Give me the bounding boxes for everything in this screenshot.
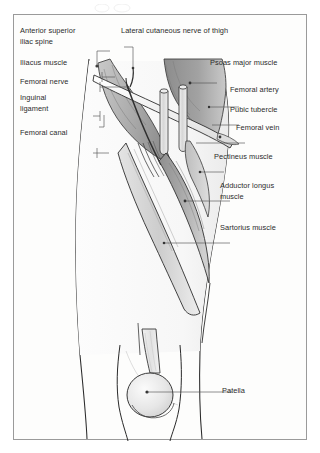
label-inguinal-ligament: Inguinal ligament [20,93,48,114]
label-femoral-vein: Femoral vein [236,123,279,134]
label-femoral-canal: Femoral canal [20,128,67,139]
label-anterior-superior-iliac-spine: Anterior superior iliac spine [20,26,108,47]
label-psoas-major-muscle: Psoas major muscle [210,58,277,69]
label-pubic-tubercle: Pubic tubercle [230,105,278,116]
label-iliacus-muscle: Iliacus muscle [20,58,67,69]
label-layer: Anterior superior iliac spine Iliacus mu… [14,15,308,441]
anatomy-figure: Anterior superior iliac spine Iliacus mu… [0,0,320,453]
label-patella: Patella [222,386,245,397]
label-adductor-longus-muscle: Adductor longus muscle [220,181,300,202]
scan-artifact [88,1,150,12]
label-sartorius-muscle: Sartorius muscle [220,223,276,234]
label-femoral-artery: Femoral artery [230,85,279,96]
label-lateral-cutaneous-nerve-of-thigh: Lateral cutaneous nerve of thigh [121,26,228,37]
label-femoral-nerve: Femoral nerve [20,77,68,88]
label-pectineus-muscle: Pectineus muscle [214,152,273,163]
figure-frame: Anterior superior iliac spine Iliacus mu… [13,14,307,440]
